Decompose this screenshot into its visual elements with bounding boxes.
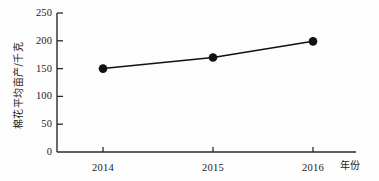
data-point-2016: [309, 37, 318, 46]
y-tick-label-0: 0: [18, 147, 52, 158]
y-axis-ticks: [57, 13, 63, 124]
x-tick-2016: 2016: [283, 157, 343, 175]
y-axis-title: 棉花平均亩产/千克: [10, 26, 25, 146]
data-line-series-1: [103, 41, 313, 68]
x-tick-2015: 2015: [183, 157, 243, 175]
x-axis-ticks: [103, 147, 313, 152]
x-tick-label-2014: 2014: [92, 162, 114, 173]
x-axis-title: 年份: [340, 157, 361, 172]
chart-container: 250 200 150 100 50 0 2014 2015 2016 棉花平均…: [0, 0, 379, 181]
x-tick-label-2016: 2016: [302, 162, 324, 173]
chart-plot-area: [0, 0, 379, 181]
data-point-2014: [99, 64, 108, 73]
x-tick-2014: 2014: [73, 157, 133, 175]
y-tick-label-250: 250: [18, 8, 52, 19]
data-point-2015: [209, 53, 218, 62]
x-tick-label-2015: 2015: [202, 162, 224, 173]
